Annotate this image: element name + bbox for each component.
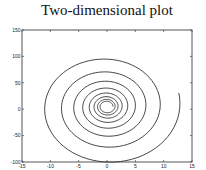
x-tick-label: -5 <box>76 163 81 169</box>
x-tick-label: -10 <box>47 163 54 169</box>
axis-tick-labels: -15-10-5051015-100-50050100150 <box>10 27 195 169</box>
spiral-line <box>45 59 180 162</box>
y-tick-label: 50 <box>15 80 21 86</box>
x-tick-label: 10 <box>161 163 167 169</box>
axis-ticks <box>22 30 192 162</box>
axes-box <box>22 30 192 162</box>
y-tick-label: 100 <box>12 53 21 59</box>
y-tick-label: 150 <box>12 27 21 33</box>
plot-area: -15-10-5051015-100-50050100150 <box>0 0 206 170</box>
y-tick-label: 0 <box>18 106 21 112</box>
y-tick-label: -100 <box>10 159 20 165</box>
x-tick-label: 5 <box>134 163 137 169</box>
x-tick-label: 15 <box>189 163 195 169</box>
x-tick-label: 0 <box>106 163 109 169</box>
y-tick-label: -50 <box>13 132 20 138</box>
